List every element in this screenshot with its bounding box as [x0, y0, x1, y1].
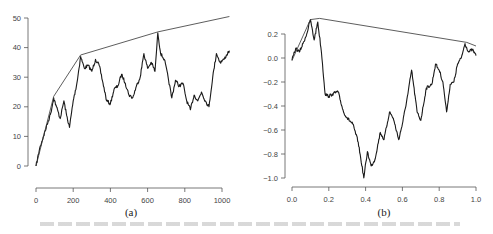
x-tick-label: 0.6 — [397, 195, 407, 204]
x-tick-label: 200 — [67, 196, 80, 205]
panel-b-random-walk-line — [292, 20, 476, 178]
panel-a-random-walk-line — [36, 33, 229, 166]
y-tick-label: 30 — [13, 73, 21, 82]
y-tick-label: −0.6 — [263, 126, 278, 135]
y-tick-label: −1.0 — [263, 174, 278, 183]
y-tick-label: 0.0 — [268, 54, 278, 63]
x-tick-label: 1000 — [214, 196, 231, 205]
x-tick-label: 0.0 — [287, 195, 297, 204]
x-tick-label: 400 — [104, 196, 117, 205]
x-tick-label: 600 — [141, 196, 154, 205]
x-tick-label: 1.0 — [471, 195, 481, 204]
y-tick-label: 20 — [13, 102, 21, 111]
x-tick-label: 0.8 — [434, 195, 444, 204]
panel-b-x-ticks: 0.00.20.40.60.81.0 — [287, 187, 481, 204]
panel-a-x-ticks: 02004006008001000 — [34, 188, 230, 205]
x-tick-label: 0.4 — [360, 195, 370, 204]
y-tick-label: 40 — [13, 43, 21, 52]
y-tick-label: 10 — [13, 132, 21, 141]
y-tick-label: 50 — [13, 14, 21, 23]
x-tick-label: 0.2 — [324, 195, 334, 204]
x-tick-label: 800 — [179, 196, 192, 205]
y-tick-label: 0 — [17, 162, 21, 171]
panel-b-chart: −1.0−0.8−0.6−0.4−0.20.00.2 0.00.20.40.60… — [263, 18, 481, 219]
panel-a-y-ticks: 01020304050 — [13, 14, 28, 171]
panel-a-concave-majorant-line — [36, 17, 229, 167]
panel-a-label: (a) — [125, 206, 138, 219]
y-tick-label: −0.4 — [263, 102, 278, 111]
panel-b-label: (b) — [378, 206, 391, 219]
y-tick-label: −0.8 — [263, 150, 278, 159]
figure-caption-cutoff — [40, 222, 460, 226]
panel-b-y-ticks: −1.0−0.8−0.6−0.4−0.20.00.2 — [263, 30, 285, 183]
y-tick-label: −0.2 — [263, 78, 278, 87]
y-tick-label: 0.2 — [268, 30, 278, 39]
figure: 01020304050 02004006008001000 (a) −1.0−0… — [0, 0, 493, 234]
x-tick-label: 0 — [34, 196, 38, 205]
panel-a-chart: 01020304050 02004006008001000 (a) — [13, 14, 231, 219]
